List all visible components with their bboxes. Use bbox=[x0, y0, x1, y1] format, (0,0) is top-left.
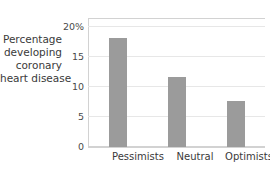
x-tick-optimists: Optimists bbox=[194, 151, 270, 162]
y-tick-20: 20% bbox=[40, 21, 84, 32]
bar-neutral bbox=[168, 77, 186, 147]
y-tick-10: 10 bbox=[40, 81, 84, 92]
plot-area bbox=[88, 18, 265, 147]
gridline-20 bbox=[88, 26, 265, 27]
x-axis-tick-labels: Pessimists Neutral Optimists bbox=[88, 151, 265, 171]
bar-optimists bbox=[227, 101, 245, 147]
y-tick-0: 0 bbox=[40, 141, 84, 152]
bar-pessimists bbox=[109, 38, 127, 147]
y-tick-5: 5 bbox=[40, 111, 84, 122]
y-tick-15: 15 bbox=[40, 51, 84, 62]
bar-chart-figure: Percentage developing coronary heart dis… bbox=[0, 0, 270, 181]
